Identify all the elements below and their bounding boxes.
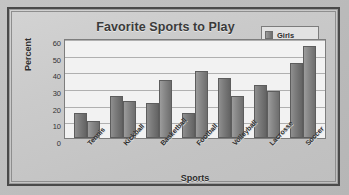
y-tick-40: 40 xyxy=(39,72,61,81)
x-axis-title: Sports xyxy=(64,173,326,183)
bar-kickball-girls xyxy=(110,96,123,138)
x-tick-volleyball: Volleyball xyxy=(213,140,249,174)
bar-lacrosse-girls xyxy=(254,85,267,138)
bar-football-boys xyxy=(195,71,208,138)
x-tick-basketball: Basketball xyxy=(141,140,177,174)
y-tick-50: 50 xyxy=(39,56,61,65)
bar-soccer-boys xyxy=(303,46,316,138)
chart-frame: Favorite Sports to Play Girls Boys Perce… xyxy=(7,7,340,186)
bar-soccer-girls xyxy=(290,63,303,138)
x-tick-lacrosse: Lacrosse xyxy=(249,140,285,174)
chart-screenshot: Favorite Sports to Play Girls Boys Perce… xyxy=(0,0,349,195)
y-tick-60: 60 xyxy=(39,39,61,48)
bar-group-kickball xyxy=(105,40,141,138)
y-tick-20: 20 xyxy=(39,106,61,115)
x-tick-football: Football xyxy=(177,140,213,174)
y-axis-title: Percent xyxy=(23,38,33,71)
bar-group-basketball xyxy=(141,40,177,138)
y-tick-0: 0 xyxy=(39,139,61,148)
x-axis-tick-labels: TennisKickballBasketballFootballVolleyba… xyxy=(64,140,326,174)
x-tick-tennis: Tennis xyxy=(68,140,104,174)
bar-tennis-girls xyxy=(74,113,87,138)
bar-basketball-girls xyxy=(146,103,159,138)
chart-title-text: Favorite Sports to Play xyxy=(96,20,234,34)
bar-group-volleyball xyxy=(213,40,249,138)
x-tick-soccer: Soccer xyxy=(286,140,322,174)
y-tick-30: 30 xyxy=(39,89,61,98)
legend-swatch-girls-icon xyxy=(265,31,273,39)
x-tick-kickball: Kickball xyxy=(104,140,140,174)
y-axis-tick-labels: 6050403020100 xyxy=(39,33,61,145)
bar-group-tennis xyxy=(69,40,105,138)
y-tick-10: 10 xyxy=(39,122,61,131)
bar-volleyball-girls xyxy=(218,78,231,138)
